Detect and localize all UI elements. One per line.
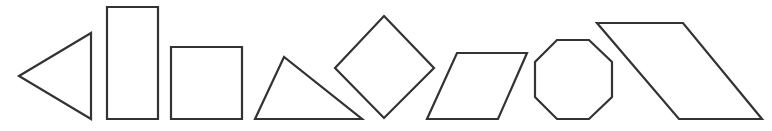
left-pointing-triangle — [19, 33, 91, 119]
square — [171, 47, 242, 119]
tall-rectangle — [107, 7, 158, 119]
octagon — [535, 40, 612, 119]
diamond — [335, 16, 434, 118]
right-leaning-parallelogram — [427, 53, 527, 119]
left-leaning-parallelogram — [597, 23, 762, 119]
shapes-figure — [0, 0, 772, 131]
